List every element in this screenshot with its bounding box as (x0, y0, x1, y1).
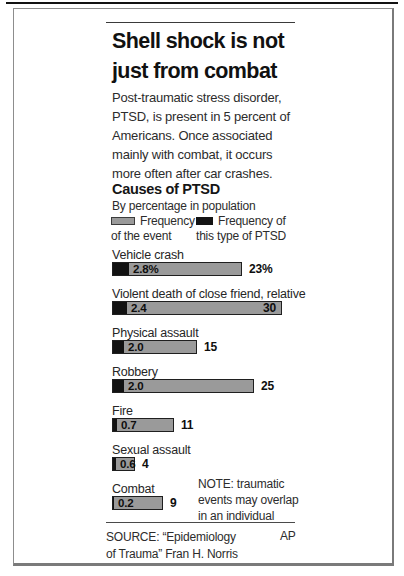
event-frequency-bar: 0.2 (112, 496, 163, 510)
legend-line-2: this type of PTSD (196, 229, 306, 244)
event-frequency-bar: 2.0 (112, 340, 197, 354)
legend-line-1: Frequency (111, 214, 201, 229)
ptsd-frequency-bar (113, 419, 117, 431)
chart-subheading: By percentage in population (112, 199, 255, 213)
event-value-label: 11 (181, 418, 193, 432)
legend-text: Frequency of (218, 214, 286, 228)
source-rule (106, 522, 295, 523)
bar-row: Physical assault2.015 (112, 326, 394, 354)
intro-line: mainly with combat, it occurs (112, 145, 332, 164)
source-line: of Trauma” Fran H. Norris (106, 546, 238, 563)
bar-category-label: Physical assault (112, 326, 394, 339)
intro-paragraph: Post-traumatic stress disorder, PTSD, is… (112, 88, 332, 183)
ptsd-value-label: 2.4 (131, 302, 146, 314)
ptsd-value-label: 2.0 (128, 380, 143, 392)
bar-row: Fire0.711 (112, 404, 394, 432)
ptsd-value-label: 2.8% (133, 263, 158, 275)
ptsd-value-label: 0.6 (120, 458, 135, 470)
event-frequency-bar: 0.7 (112, 418, 174, 432)
intro-line: Americans. Once associated (112, 126, 332, 145)
legend-item-event-frequency: Frequency of the event (111, 214, 201, 244)
headline-line-2: just from combat (112, 56, 342, 86)
note-text: NOTE: traumatic events may overlap in an… (198, 476, 298, 524)
bar-pair: 2.015 (112, 340, 394, 354)
headline: Shell shock is not just from combat (112, 26, 342, 86)
bar-category-label: Robbery (112, 365, 394, 378)
gray-swatch-icon (111, 217, 135, 225)
ptsd-frequency-bar (113, 302, 127, 314)
ptsd-value-label: 0.7 (121, 419, 136, 431)
event-value-label: 23% (249, 262, 272, 276)
legend-item-ptsd-frequency: Frequency of this type of PTSD (196, 214, 306, 244)
note-line: NOTE: traumatic (198, 476, 298, 492)
legend-line-2: of the event (111, 229, 201, 244)
ptsd-frequency-bar (113, 380, 124, 392)
bar-pair: 0.64 (112, 457, 394, 471)
intro-line: PTSD, is present in 5 percent of (112, 107, 332, 126)
bar-pair: 2.430 (112, 301, 394, 315)
ptsd-value-label: 2.0 (128, 341, 143, 353)
infographic-frame: Shell shock is not just from combat Post… (13, 8, 394, 566)
event-value-label: 4 (142, 457, 148, 471)
event-frequency-bar: 2.8% (112, 262, 242, 276)
event-frequency-bar: 2.430 (112, 301, 282, 315)
top-black-rule (6, 2, 398, 4)
legend-text: Frequency (140, 214, 195, 228)
ptsd-frequency-bar (113, 263, 129, 275)
event-value-label: 30 (263, 302, 276, 314)
event-frequency-bar: 2.0 (112, 379, 254, 393)
credit-ap: AP (280, 529, 296, 543)
title-rule (106, 22, 295, 23)
chart-heading: Causes of PTSD (112, 181, 220, 197)
note-line: events may overlap (198, 492, 298, 508)
bar-row: Vehicle crash2.8%23% (112, 248, 394, 276)
ptsd-frequency-bar (113, 497, 114, 509)
infographic-page: Shell shock is not just from combat Post… (0, 0, 404, 576)
bar-category-label: Vehicle crash (112, 248, 394, 261)
ptsd-value-label: 0.2 (118, 497, 133, 509)
legend-line-1: Frequency of (196, 214, 306, 229)
source-line: SOURCE: “Epidemiology (106, 529, 238, 546)
ptsd-frequency-bar (113, 458, 116, 470)
black-swatch-icon (196, 217, 213, 225)
bar-row: Violent death of close friend, relative2… (112, 287, 394, 315)
bar-pair: 2.8%23% (112, 262, 394, 276)
event-value-label: 15 (204, 340, 217, 354)
bar-category-label: Fire (112, 404, 394, 417)
source-text: SOURCE: “Epidemiology of Trauma” Fran H.… (106, 529, 238, 563)
event-value-label: 25 (261, 379, 274, 393)
bar-row: Sexual assault0.64 (112, 443, 394, 471)
bar-pair: 0.711 (112, 418, 394, 432)
bar-pair: 2.025 (112, 379, 394, 393)
bar-row: Robbery2.025 (112, 365, 394, 393)
event-frequency-bar: 0.6 (112, 457, 135, 471)
intro-line: Post-traumatic stress disorder, (112, 88, 332, 107)
headline-line-1: Shell shock is not (112, 26, 342, 56)
bar-category-label: Violent death of close friend, relative (112, 287, 394, 300)
ptsd-frequency-bar (113, 341, 124, 353)
event-value-label: 9 (170, 496, 176, 510)
bar-category-label: Sexual assault (112, 443, 394, 456)
